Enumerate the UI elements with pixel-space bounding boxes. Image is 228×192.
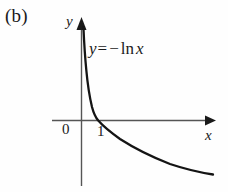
origin-label: 0	[62, 122, 70, 137]
y-axis-label: y	[66, 14, 73, 29]
x-tick-label-1: 1	[97, 124, 105, 139]
equation-variable: x	[134, 39, 144, 58]
equation-minus-sign: −	[108, 39, 120, 58]
equation-equals: =	[97, 39, 109, 58]
curve-equation-label: y=−lnx	[89, 40, 144, 57]
x-axis-label: x	[205, 128, 212, 143]
y-axis-arrowhead	[77, 17, 87, 30]
plot-canvas	[0, 0, 228, 192]
x-axis-arrowhead	[205, 116, 216, 126]
part-label: (b)	[5, 6, 28, 25]
figure-panel: (b) y x 0 1 y=−lnx	[0, 0, 228, 192]
equation-ln-function: ln	[120, 39, 134, 58]
equation-lhs: y	[89, 39, 97, 58]
